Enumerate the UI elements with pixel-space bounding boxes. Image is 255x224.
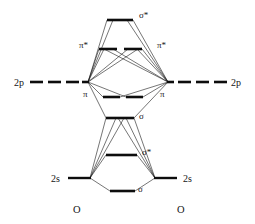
tie-left2p-pistar-r <box>88 49 128 82</box>
mo-diagram: σ* π* π* 2p 2p π π σ σ* σ 2s 2s O O <box>0 0 255 224</box>
tie-left2s-sigma2p <box>90 118 106 178</box>
label-sigma-star-2s: σ* <box>142 147 152 157</box>
tie-right2p-pistar-r <box>142 49 168 82</box>
tie-left2p-pi-r <box>88 82 126 97</box>
tie-right2p-sigmastar-b <box>127 20 168 82</box>
label-sigma-star-2p: σ* <box>139 10 149 20</box>
tie-left2p-pistar-l <box>88 49 99 82</box>
tie-left2p-pi-l <box>88 82 103 97</box>
tie-left2s-sigma2p-b <box>90 118 116 178</box>
label-left-2s: 2s <box>51 173 60 184</box>
tie-left2p-sigma <box>88 82 106 118</box>
label-left-2p: 2p <box>14 77 24 88</box>
label-pi-star-left: π* <box>79 40 89 50</box>
tie-lines-2p <box>88 20 168 118</box>
tie-left2s-sigmastar2s <box>90 155 106 178</box>
label-atom-left: O <box>73 204 81 215</box>
label-sigma-2s: σ <box>138 184 143 194</box>
mo-diagram-canvas: σ* π* π* 2p 2p π π σ σ* σ 2s 2s O O <box>0 0 255 224</box>
tie-right2p-pistar-l <box>113 49 168 82</box>
tie-right2s-sigmastar2s <box>137 155 155 178</box>
tie-left2s-sigma2p-c <box>90 118 124 178</box>
tie-left2p-sigmastar-b <box>88 20 113 82</box>
label-pi-left: π <box>83 89 88 99</box>
label-pi-star-right: π* <box>157 40 167 50</box>
label-right-2s: 2s <box>183 173 192 184</box>
label-atom-right: O <box>177 204 185 215</box>
label-pi-right: π <box>160 89 165 99</box>
label-right-2p: 2p <box>231 77 241 88</box>
tie-left2s-sigma2s <box>90 178 110 191</box>
label-sigma-2p: σ <box>139 111 144 121</box>
